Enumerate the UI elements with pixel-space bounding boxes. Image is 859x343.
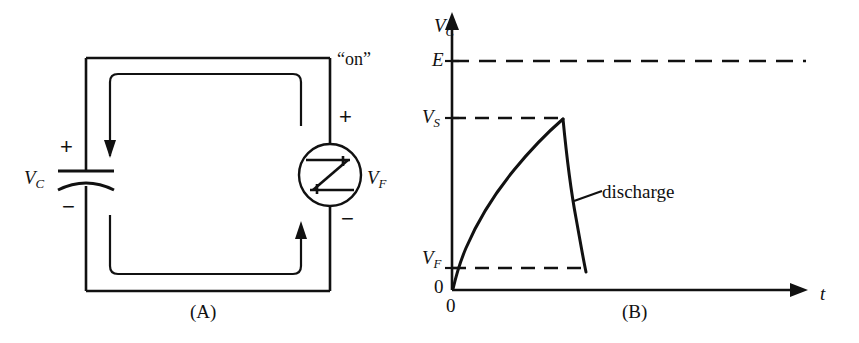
device-voltage-label: VF <box>367 168 387 191</box>
current-path-lower <box>110 215 301 274</box>
panel-a-circuit: VC + − “on” + − VF (A) <box>0 0 430 343</box>
discharge-leader-line <box>574 191 602 201</box>
ytick-label-VF: VF <box>422 248 442 271</box>
origin-label-x: 0 <box>446 296 456 315</box>
x-axis-label: t <box>820 284 825 303</box>
current-arrow-up-icon <box>295 221 307 239</box>
current-arrow-down-icon <box>104 140 116 158</box>
capacitor-minus-sign: − <box>62 196 75 218</box>
charge-curve <box>453 119 563 289</box>
panel-b-chart: VC t E VS VF 0 0 discharge (B) <box>430 0 859 343</box>
discharge-curve <box>563 119 586 272</box>
panel-a-caption: (A) <box>190 302 216 321</box>
y-axis-label: VC <box>434 16 454 39</box>
current-path-upper <box>110 74 301 156</box>
ytick-label-E: E <box>432 50 444 69</box>
chart-svg <box>430 0 859 343</box>
ytick-label-VS: VS <box>422 107 440 130</box>
figure-container: VC + − “on” + − VF (A) <box>0 0 859 343</box>
on-state-label: “on” <box>337 50 371 68</box>
capacitor-plus-sign: + <box>60 136 73 158</box>
x-axis-arrow-icon <box>790 283 808 297</box>
device-minus-sign: − <box>341 208 354 230</box>
discharge-annotation: discharge <box>602 182 674 201</box>
device-plus-sign: + <box>339 106 352 128</box>
capacitor-voltage-label: VC <box>24 168 44 191</box>
origin-label-y: 0 <box>434 277 444 296</box>
panel-b-caption: (B) <box>622 302 647 321</box>
